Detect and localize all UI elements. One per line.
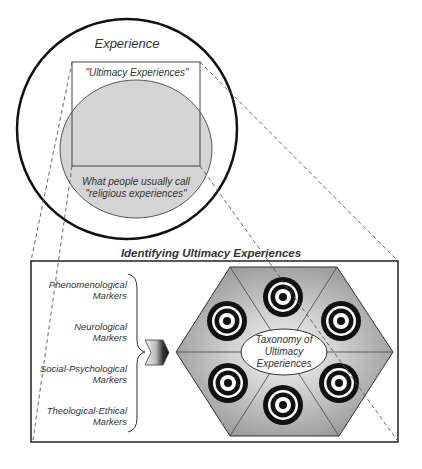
target-icon-upper-left — [207, 301, 247, 341]
taxonomy-label-line3: Experiences — [256, 358, 311, 369]
marker-theological-ethical-line2: Markers — [93, 416, 128, 427]
marker-social-psychological-line2: Markers — [93, 374, 128, 385]
experience-label: Experience — [94, 36, 159, 51]
taxonomy-label-line2: Ultimacy — [265, 346, 304, 357]
target-icon-lower-right — [319, 363, 359, 403]
experience-diagram: Experience "Ultimacy Experiences" What p… — [17, 19, 237, 239]
religious-experiences-label-line2: "religious experiences" — [85, 188, 186, 199]
target-icon-lower-left — [208, 363, 248, 403]
target-icon-top — [263, 277, 303, 317]
marker-phenomenological-line1: Phenomenological — [49, 279, 128, 290]
marker-neurological-line2: Markers — [93, 332, 128, 343]
ultimacy-experiences-label: "Ultimacy Experiences" — [85, 67, 189, 78]
marker-theological-ethical-line1: Theological-Ethical — [47, 405, 128, 416]
marker-phenomenological-line2: Markers — [93, 290, 128, 301]
identifying-panel: Identifying Ultimacy Experiences Phenome… — [31, 247, 398, 442]
panel-title: Identifying Ultimacy Experiences — [121, 247, 301, 259]
target-icon-upper-right — [321, 301, 361, 341]
religious-experiences-label-line1: What people usually call — [82, 176, 191, 187]
taxonomy-label-line1: Taxonomy of — [256, 334, 314, 345]
marker-social-psychological-line1: Social-Psychological — [40, 363, 128, 374]
diagram-canvas: Experience "Ultimacy Experiences" What p… — [0, 0, 422, 469]
marker-neurological-line1: Neurological — [74, 321, 128, 332]
target-icon-bottom — [263, 385, 303, 425]
